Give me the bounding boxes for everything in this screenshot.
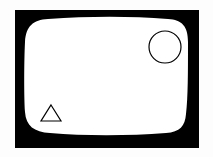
drawing-canvas: Screen with shapes — [0, 0, 213, 157]
tv-screen-surface — [24, 17, 188, 136]
scene-svg — [0, 0, 213, 157]
